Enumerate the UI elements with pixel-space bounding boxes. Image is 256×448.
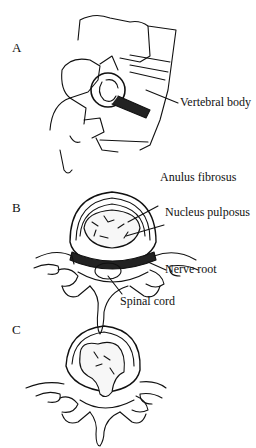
label-spinal-cord: Spinal cord — [120, 294, 175, 308]
leader-anulus — [128, 206, 158, 222]
panel-label-c: C — [12, 322, 21, 338]
label-anulus-fibrosus: Anulus fibrosus — [160, 170, 236, 184]
leader-vertebral-body — [146, 90, 178, 103]
leader-spinal-cord — [108, 276, 122, 294]
label-nucleus-pulposus: Nucleus pulposus — [165, 205, 250, 219]
spine-illustration — [0, 0, 256, 448]
label-nerve-root: Nerve root — [165, 262, 217, 276]
label-vertebral-body: Vertebral body — [180, 95, 251, 109]
panel-c-herniated-disc-drawing — [26, 326, 166, 446]
panel-label-b: B — [12, 200, 21, 216]
leader-nerve-root — [148, 262, 166, 270]
panel-label-a: A — [12, 40, 21, 56]
